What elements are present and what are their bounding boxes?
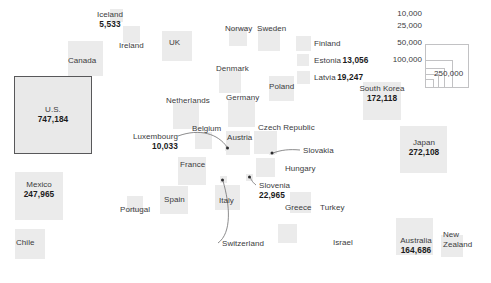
legend-box-250000: [425, 44, 469, 88]
legend-label-50000: 50,000: [325, 38, 422, 47]
legend-label-250000: 250,000: [434, 69, 463, 78]
cartogram-chart: Iceland 5,533 Canada Ireland UK Norway S…: [0, 0, 491, 283]
legend-label-100000: 100,000: [325, 55, 422, 64]
size-legend: 10,000 25,000 50,000 100,000 250,000: [0, 0, 491, 283]
legend-label-10000: 10,000: [325, 9, 422, 18]
legend-label-25000: 25,000: [325, 21, 422, 30]
